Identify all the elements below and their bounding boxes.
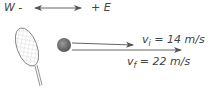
initial-velocity-arrow <box>72 43 133 45</box>
initial-velocity-value: = 14 m/s <box>154 33 204 46</box>
racket-icon <box>11 25 43 86</box>
final-velocity-subscript: f <box>134 61 137 70</box>
final-velocity-value: = 22 m/s <box>140 55 190 68</box>
initial-velocity-subscript: i <box>149 39 151 48</box>
final-velocity-label: vf = 22 m/s <box>127 55 190 70</box>
ball-icon <box>57 38 71 52</box>
initial-velocity-label: vi = 14 m/s <box>142 33 205 48</box>
west-label: W - <box>4 1 22 14</box>
east-label: + E <box>91 1 111 14</box>
